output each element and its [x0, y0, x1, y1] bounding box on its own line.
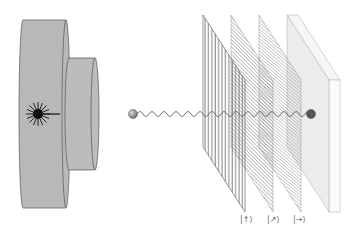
small-cylinder [65, 58, 99, 170]
ket-label-right: |→⟩ [293, 215, 306, 224]
ket-label-up: |↑⟩ [240, 215, 253, 224]
detected-photon-icon [307, 110, 316, 119]
photon-polarization-diagram [0, 0, 352, 240]
photon-ball-icon [129, 110, 138, 119]
ket-label-diagonal: |↗⟩ [267, 215, 280, 224]
laser-source [19, 20, 99, 208]
